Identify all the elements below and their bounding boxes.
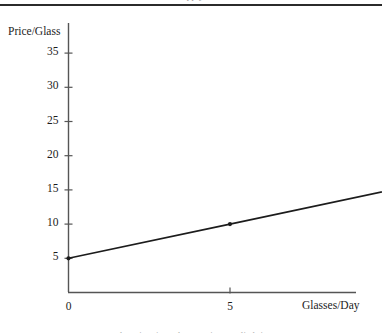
figure-page: supply Price/Glass Glasses/Day 510152025…	[0, 0, 382, 333]
x-axis-title: Glasses/Day	[302, 299, 360, 311]
y-axis-title: Price/Glass	[8, 25, 60, 37]
y-tick-label: 30	[37, 79, 59, 91]
data-point-marker	[66, 256, 70, 260]
data-point-marker	[228, 222, 232, 226]
series-markers-supply	[66, 85, 382, 260]
y-tick-label: 20	[37, 148, 59, 160]
y-tick-label: 25	[37, 114, 59, 126]
series-line-supply	[69, 87, 382, 258]
y-tick-label: 5	[37, 250, 59, 262]
x-tick-label: 0	[58, 300, 80, 312]
y-tick-label: 35	[37, 45, 59, 57]
y-tick-label: 10	[37, 216, 59, 228]
y-tick-label: 15	[37, 182, 59, 194]
x-tick-label: 5	[219, 300, 241, 312]
